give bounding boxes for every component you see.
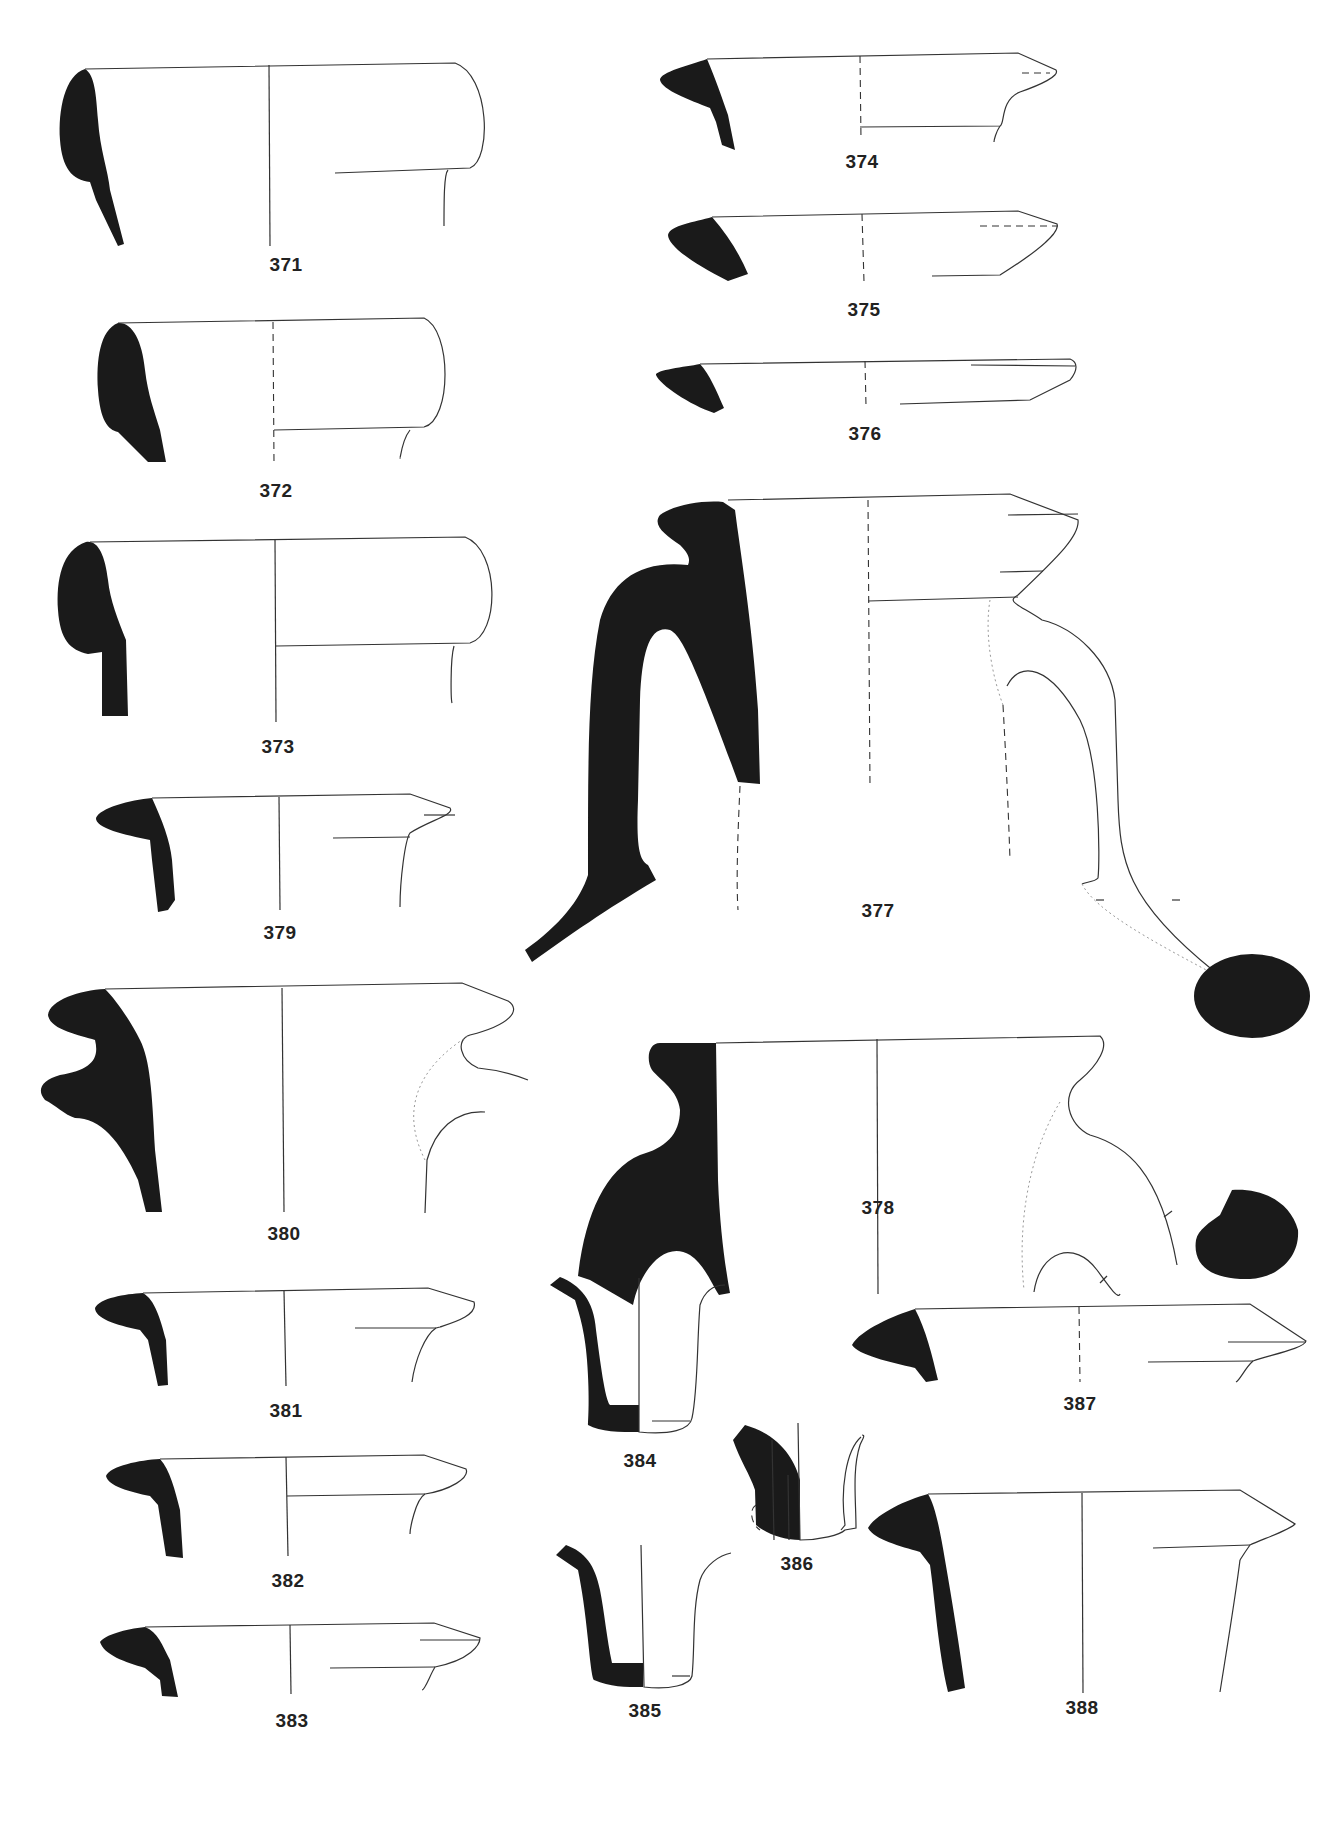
figure-label-374: 374 [845, 151, 878, 173]
figure-label-385: 385 [628, 1700, 661, 1722]
figure-label-383: 383 [275, 1710, 308, 1732]
figure-label-388: 388 [1065, 1697, 1098, 1719]
figure-380-drawing [41, 983, 528, 1213]
figure-label-381: 381 [269, 1400, 302, 1422]
figure-label-376: 376 [848, 423, 881, 445]
figure-379-drawing [96, 794, 455, 912]
figure-label-373: 373 [261, 736, 294, 758]
figure-label-386: 386 [780, 1553, 813, 1575]
figure-381-drawing [95, 1288, 474, 1386]
pottery-plate [0, 0, 1344, 1822]
figure-388-drawing [841, 1437, 1295, 1693]
figure-label-384: 384 [623, 1450, 656, 1472]
figure-label-379: 379 [263, 922, 296, 944]
figure-371-drawing [60, 63, 485, 246]
figure-label-380: 380 [267, 1223, 300, 1245]
figure-label-375: 375 [847, 299, 880, 321]
figure-387-drawing [852, 1304, 1306, 1382]
figure-384-drawing [550, 1277, 725, 1433]
figure-label-372: 372 [259, 480, 292, 502]
figure-378-drawing [578, 1036, 1298, 1305]
figure-label-371: 371 [269, 254, 302, 276]
figure-375-drawing [668, 211, 1058, 282]
figure-385-drawing [556, 1545, 731, 1688]
figure-label-378: 378 [861, 1197, 894, 1219]
figure-label-377: 377 [861, 900, 894, 922]
figure-383-drawing [100, 1623, 480, 1697]
figure-374-drawing [660, 53, 1057, 150]
figure-label-387: 387 [1063, 1393, 1096, 1415]
figure-label-382: 382 [271, 1570, 304, 1592]
figure-376-drawing [656, 359, 1076, 413]
figure-377-drawing [525, 494, 1310, 1038]
figure-373-drawing [58, 537, 492, 722]
figure-372-drawing [98, 318, 445, 464]
figure-382-drawing [106, 1455, 467, 1558]
